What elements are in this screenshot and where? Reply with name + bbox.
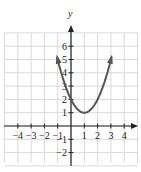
y-tick-label: 6 [62, 41, 67, 52]
y-axis-arrow-icon [68, 25, 74, 32]
y-tick-label: −2 [56, 147, 67, 158]
y-tick-label: −1 [56, 134, 67, 145]
parabola-graph: −4−3−2−11234−2−1123456 y [0, 0, 141, 172]
y-tick-label: 1 [62, 107, 67, 118]
x-tick-label: −2 [39, 130, 50, 141]
x-axis-arrow-icon [131, 123, 138, 129]
x-tick-label: −4 [12, 130, 23, 141]
x-tick-label: −3 [26, 130, 37, 141]
x-tick-label: 1 [82, 130, 87, 141]
x-tick-label: 3 [108, 130, 113, 141]
y-tick-label: 5 [62, 54, 67, 65]
x-tick-label: 2 [95, 130, 100, 141]
y-tick-label: 2 [62, 94, 67, 105]
y-axis-label: y [67, 8, 73, 19]
x-tick-label: 4 [122, 130, 127, 141]
